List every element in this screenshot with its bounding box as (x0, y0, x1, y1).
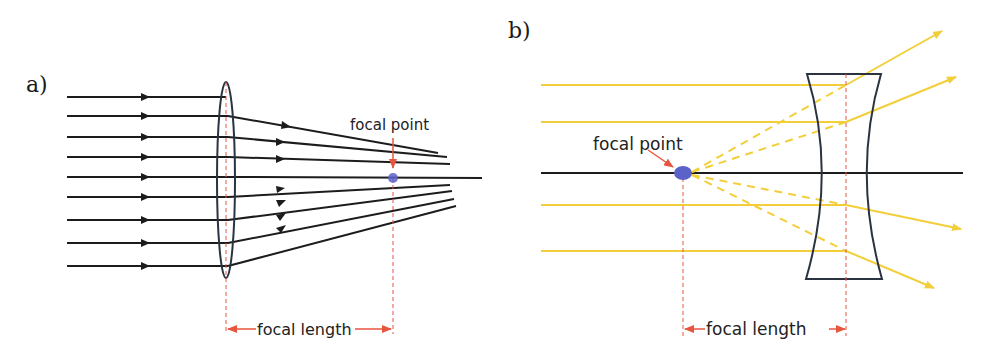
concave-lens (806, 74, 882, 279)
incoming-rays-b (541, 85, 846, 251)
focal-point-label-a: focal point (350, 116, 429, 134)
focal-point-dot (388, 173, 398, 183)
focal-point-label-b: focal point (593, 134, 683, 154)
panel-a-label: a) (26, 72, 48, 97)
incoming-ray-arrowheads (141, 93, 150, 270)
virtual-rays (692, 85, 846, 251)
focal-length-label-b: focal length (706, 319, 806, 339)
refracted-rays (228, 116, 482, 266)
focal-length-label-a: focal length (257, 320, 352, 339)
lens-diagram: a) (0, 0, 985, 352)
panel-b-concave-lens: b) focal (508, 18, 963, 339)
panel-a-convex-lens: a) (26, 72, 482, 339)
panel-b-label: b) (508, 18, 531, 43)
incoming-rays (67, 97, 228, 266)
focal-point-dot-b (674, 166, 692, 180)
diverging-rays (846, 31, 961, 288)
